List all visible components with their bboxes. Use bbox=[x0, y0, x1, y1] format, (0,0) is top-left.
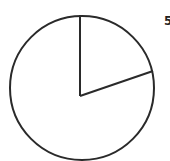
pie-chart bbox=[0, 0, 170, 161]
pie-outline bbox=[10, 16, 154, 160]
clipped-label: 5 bbox=[164, 14, 170, 28]
slice-divider-right bbox=[80, 71, 153, 96]
